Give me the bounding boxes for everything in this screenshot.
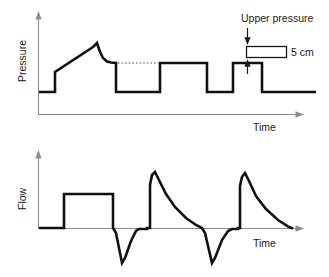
flow-y-axis-label: Flow bbox=[16, 187, 28, 210]
up-arrow-icon bbox=[244, 59, 250, 74]
pressure-panel: Pressure Time bbox=[16, 11, 316, 133]
flow-y-axis bbox=[35, 150, 41, 229]
upper-pressure-annotation: Upper pressure 5 cm bbox=[241, 12, 314, 74]
pressure-x-axis-label: Time bbox=[253, 121, 276, 133]
pressure-x-axis bbox=[39, 111, 305, 117]
upper-pressure-label: Upper pressure bbox=[241, 12, 314, 24]
scale-bar-box bbox=[247, 47, 287, 58]
pressure-waveform bbox=[39, 43, 316, 92]
flow-panel: Flow Time bbox=[16, 150, 304, 263]
flow-waveform bbox=[39, 172, 293, 263]
flow-x-axis bbox=[39, 225, 305, 231]
scale-bar-label: 5 cm bbox=[291, 46, 314, 58]
pressure-y-axis-label: Pressure bbox=[16, 40, 28, 82]
pressure-y-axis bbox=[35, 11, 41, 115]
down-arrow-icon bbox=[244, 28, 250, 45]
waveform-figure: Pressure Time Upper pressure 5 cm bbox=[0, 0, 329, 277]
flow-x-axis-label: Time bbox=[253, 237, 276, 249]
